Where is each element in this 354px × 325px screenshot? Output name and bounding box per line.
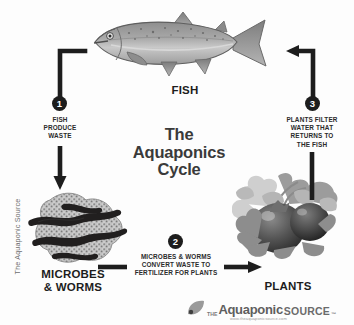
leaf-icon bbox=[186, 299, 206, 317]
page-title-line2: Aquaponics bbox=[126, 144, 232, 162]
step-1-caption: FISH PRODUCE WASTE bbox=[29, 116, 91, 141]
step-3-caption: PLANTS FILTER WATER THAT RETURNS TO THE … bbox=[272, 116, 352, 149]
step-1-caption-line2: PRODUCE bbox=[29, 124, 91, 132]
step-1-badge: 1 bbox=[52, 96, 67, 111]
page-title-line3: Cycle bbox=[126, 161, 232, 179]
tomato-plants-illustration bbox=[232, 170, 342, 270]
step-2-caption-line1: MICROBES & WORMS bbox=[129, 253, 223, 261]
step-2-badge: 2 bbox=[168, 234, 183, 249]
brand-trademark: ™ bbox=[331, 311, 336, 317]
fish-illustration bbox=[83, 8, 273, 80]
page-title-line1: The bbox=[126, 126, 232, 144]
step-2-caption-line2: CONVERT WASTE TO bbox=[129, 261, 223, 269]
step-3-arrow-top bbox=[283, 44, 323, 104]
step-1-caption-line3: WASTE bbox=[29, 132, 91, 140]
brand-logo: THE Aquaponic SOURCE ™ www.theaquaponics… bbox=[186, 299, 352, 323]
step-3-badge: 3 bbox=[305, 96, 320, 111]
plants-label: PLANTS bbox=[243, 280, 333, 293]
step-3-arrow-bottom bbox=[305, 152, 319, 202]
fish-label: FISH bbox=[135, 84, 235, 97]
brand-the: THE bbox=[207, 311, 217, 317]
step-1-caption-line1: FISH bbox=[29, 116, 91, 124]
infographic-canvas: The Aquaponic Source bbox=[0, 0, 354, 325]
step-3-caption-line4: THE FISH bbox=[272, 141, 352, 149]
worms-illustration bbox=[28, 188, 132, 266]
step-2-caption: MICROBES & WORMS CONVERT WASTE TO FERTIL… bbox=[129, 253, 223, 278]
microbes-label-line2: & WORMS bbox=[18, 281, 128, 294]
step-3-caption-line1: PLANTS FILTER bbox=[272, 116, 352, 124]
step-2-caption-line3: FERTILIZER FOR PLANTS bbox=[129, 269, 223, 277]
page-title: The Aquaponics Cycle bbox=[126, 126, 232, 179]
step-1-arrow-bottom bbox=[52, 146, 72, 192]
brand-source: SOURCE bbox=[284, 305, 330, 317]
step-1-arrow-top bbox=[52, 44, 88, 104]
step-2-arrow-left-segment bbox=[98, 262, 128, 272]
step-3-caption-line3: RETURNS TO bbox=[272, 132, 352, 140]
brand-name: Aquaponic bbox=[218, 302, 282, 317]
step-3-caption-line2: WATER THAT bbox=[272, 124, 352, 132]
